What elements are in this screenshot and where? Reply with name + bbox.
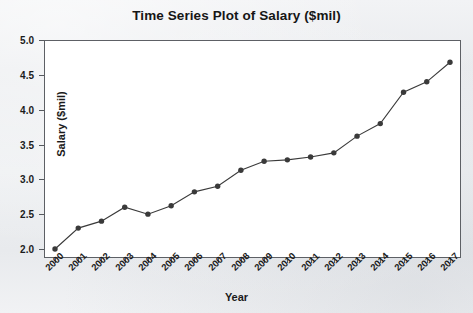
data-point [168,203,173,208]
data-point [122,205,127,210]
data-point [261,159,266,164]
data-point [447,60,452,65]
data-point [378,121,383,126]
data-point [285,157,290,162]
data-point [308,154,313,159]
data-point [424,79,429,84]
data-point [215,184,220,189]
data-point [238,168,243,173]
data-point [331,150,336,155]
series-line [55,62,450,249]
data-point [192,189,197,194]
salary-series [0,0,473,313]
data-point [76,225,81,230]
data-point [52,246,57,251]
data-point [99,218,104,223]
time-series-chart: Time Series Plot of Salary ($mil) Salary… [0,0,473,313]
data-point [401,90,406,95]
data-point [354,133,359,138]
data-point [145,211,150,216]
